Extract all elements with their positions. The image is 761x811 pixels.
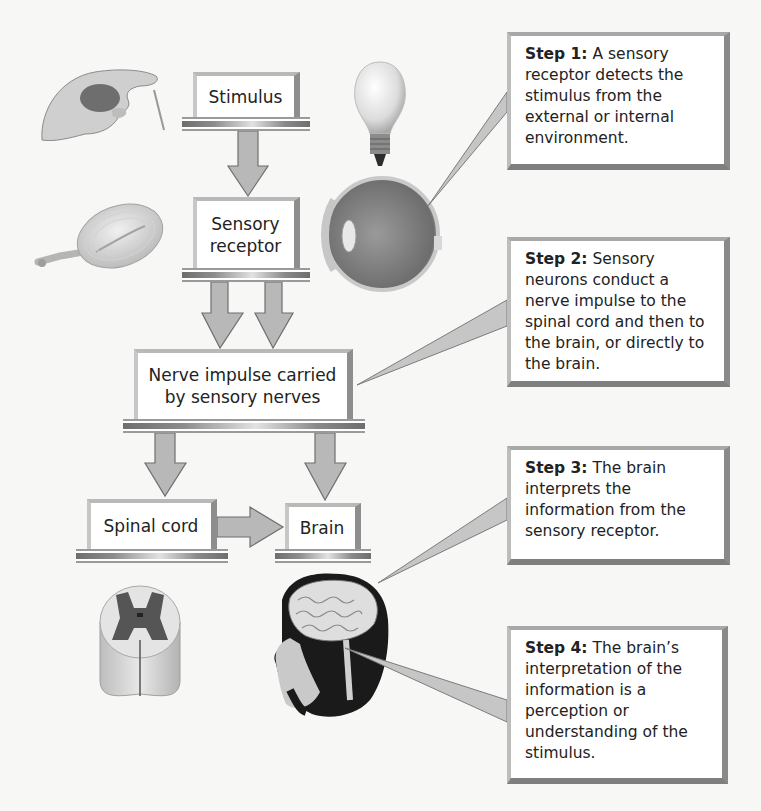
- flow-node-brain: Brain: [285, 503, 361, 549]
- step-callout-3: Step 3: The brain interprets the informa…: [507, 446, 730, 565]
- flow-node-label-line: Nerve impulse carried: [149, 364, 337, 386]
- flow-node-label: Spinal cord: [104, 515, 199, 537]
- flow-node-spinal-cord: Spinal cord: [87, 499, 217, 549]
- step-callout-4: Step 4: The brain’s interpretation of th…: [507, 626, 728, 784]
- arrow-receptor-to-nerve-2: [255, 282, 293, 348]
- flow-node-label-line: by sensory nerves: [165, 386, 321, 408]
- flow-node-label-line: receptor: [210, 235, 282, 257]
- arrow-nerve-to-spinal: [145, 433, 186, 496]
- step-lead: Step 4:: [525, 639, 588, 657]
- pacinian-corpuscle-icon: [38, 193, 172, 279]
- flow-node-label: Brain: [300, 517, 345, 539]
- arrow-spinal-to-brain: [217, 507, 283, 547]
- light-bulb-icon: [355, 62, 406, 166]
- diagram-canvas: Stimulus Sensory receptor Nerve impulse …: [0, 0, 761, 811]
- step-lead: Step 1:: [525, 45, 588, 63]
- flow-node-base: [76, 549, 228, 563]
- step-callout-2: Step 2: Sensory neurons conduct a nerve …: [507, 237, 730, 387]
- flow-node-label-line: Sensory: [211, 213, 279, 235]
- hand-touch-icon: [42, 70, 164, 141]
- arrow-nerve-to-brain: [305, 433, 346, 500]
- flow-node-stimulus: Stimulus: [193, 72, 300, 117]
- flow-node-base: [182, 268, 310, 282]
- pointer-step-1: [428, 92, 507, 206]
- step-lead: Step 3:: [525, 459, 588, 477]
- flow-node-base: [182, 117, 310, 131]
- arrow-stimulus-to-receptor: [228, 131, 268, 196]
- step-lead: Step 2:: [525, 250, 588, 268]
- pointer-step-2: [357, 300, 507, 385]
- flow-node-nerve-impulse: Nerve impulse carried by sensory nerves: [134, 349, 353, 419]
- flow-node-base: [275, 549, 371, 563]
- flow-node-label: Stimulus: [209, 86, 283, 108]
- spinal-cord-section-icon: [100, 586, 180, 696]
- step-text: The brain’s interpretation of the inform…: [525, 639, 688, 762]
- eye-cross-section-icon: [325, 178, 442, 290]
- step-text: Sensory neurons conduct a nerve impulse …: [525, 250, 704, 373]
- flow-node-base: [123, 419, 365, 433]
- head-brain-icon: [274, 573, 388, 716]
- arrow-receptor-to-nerve-1: [202, 282, 243, 348]
- flow-arrows: [145, 131, 346, 547]
- step-callout-1: Step 1: A sensory receptor detects the s…: [507, 32, 730, 170]
- flow-node-sensory-receptor: Sensory receptor: [193, 197, 300, 268]
- pointer-step-3: [378, 498, 507, 583]
